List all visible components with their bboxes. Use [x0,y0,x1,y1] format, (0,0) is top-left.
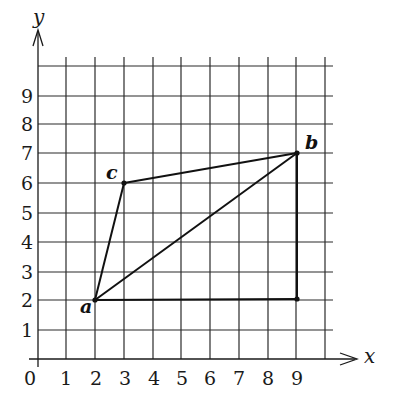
x-tick-labels: 1 2 3 4 5 6 7 8 9 [60,367,303,389]
x-tick-1: 1 [60,367,72,389]
y-tick-2: 2 [21,289,33,311]
x-tick-3: 3 [119,367,131,389]
y-tick-3: 3 [21,261,33,283]
x-tick-7: 7 [233,367,245,389]
point-b [294,150,299,155]
y-tick-4: 4 [21,231,33,253]
x-axis [29,353,357,365]
label-b: b [305,131,318,153]
y-tick-labels: 1 2 3 4 5 6 7 8 9 [21,85,33,341]
x-tick-4: 4 [148,367,160,389]
y-tick-5: 5 [21,202,33,224]
y-axis [33,30,43,367]
y-tick-8: 8 [21,113,33,135]
edge-a-b [95,153,297,300]
point-c [121,180,126,185]
point-a [92,297,97,302]
y-tick-9: 9 [21,85,33,107]
y-axis-label: y [32,5,45,29]
y-tick-7: 7 [21,142,33,164]
x-tick-5: 5 [176,367,188,389]
label-c: c [106,161,118,183]
label-a: a [80,295,92,317]
x-tick-2: 2 [90,367,102,389]
y-tick-1: 1 [21,319,33,341]
origin-label: 0 [24,367,36,389]
coordinate-diagram: x y 0 1 2 3 4 5 6 7 8 9 1 2 3 4 5 6 7 8 … [0,0,405,409]
x-axis-label: x [364,344,375,368]
x-tick-9: 9 [291,367,303,389]
point-corner [294,296,299,301]
edge-a-corner [95,299,297,300]
shape-edges [95,153,297,300]
x-tick-8: 8 [262,367,274,389]
y-tick-6: 6 [21,172,33,194]
x-tick-6: 6 [204,367,216,389]
